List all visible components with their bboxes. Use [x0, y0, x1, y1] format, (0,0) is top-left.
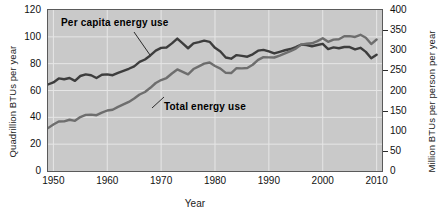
tick-mark: [383, 111, 388, 112]
y-tick-right-label: 150: [390, 105, 424, 116]
series-label-total: Total energy use: [164, 101, 246, 112]
plot-svg: [48, 10, 382, 171]
series-label-per-capita: Per capita energy use: [61, 17, 169, 28]
y-tick-right-label: 400: [390, 4, 424, 15]
x-tick-label: 1990: [249, 175, 289, 186]
x-tick-label: 1970: [141, 175, 181, 186]
tick-mark: [383, 151, 388, 152]
x-tick-label: 2000: [303, 175, 343, 186]
y-tick-left-label: 120: [11, 4, 41, 15]
x-tick-label: 1960: [87, 175, 127, 186]
y-tick-left-label: 40: [11, 111, 41, 122]
y-tick-right-label: 200: [390, 85, 424, 96]
y-tick-left-label: 60: [11, 85, 41, 96]
tick-mark: [383, 70, 388, 71]
y-axis-left-title: Quadrillion BTUs per year: [7, 27, 18, 177]
y-tick-left-label: 80: [11, 58, 41, 69]
series-line: [48, 39, 377, 85]
gridlines: [48, 10, 382, 171]
y-tick-left-label: 20: [11, 138, 41, 149]
y-axis-right-title: Million BTUs per person per year: [426, 22, 437, 182]
plot-area: [47, 9, 383, 172]
x-tick-label: 1980: [195, 175, 235, 186]
series-lines: [48, 35, 377, 128]
tick-mark: [383, 30, 388, 31]
y-tick-right-label: 100: [390, 125, 424, 136]
energy-use-chart: Quadrillion BTUs per year Million BTUs p…: [0, 0, 439, 218]
x-tick-label: 1950: [33, 175, 73, 186]
x-axis-title: Year: [0, 198, 390, 209]
y-tick-right-label: 250: [390, 64, 424, 75]
y-tick-right-label: 300: [390, 44, 424, 55]
x-tick-label: 2010: [357, 175, 397, 186]
y-tick-right-label: 50: [390, 145, 424, 156]
y-tick-left-label: 100: [11, 31, 41, 42]
y-tick-right-label: 350: [390, 24, 424, 35]
